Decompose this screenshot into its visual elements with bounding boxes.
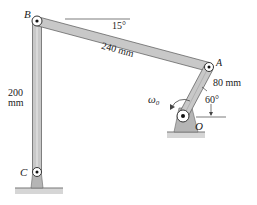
- pin-a: [205, 63, 214, 72]
- linkage-diagram: B A C O 15° 240 mm 80 mm 60° 200 mm ω0: [0, 0, 257, 205]
- label-c: C: [20, 166, 28, 178]
- label-angle-15: 15°: [112, 20, 126, 31]
- pin-c: [33, 168, 42, 177]
- omega-subscript: 0: [156, 99, 160, 107]
- label-length-oa: 80 mm: [213, 77, 241, 88]
- link-bc: [33, 21, 42, 172]
- label-a: A: [215, 57, 223, 68]
- pin-b: [32, 16, 42, 26]
- label-omega: ω0: [148, 93, 160, 107]
- label-b: B: [24, 8, 31, 20]
- pin-o: [177, 110, 189, 122]
- label-o: O: [195, 120, 203, 132]
- label-angle-60: 60°: [205, 94, 219, 105]
- label-length-bc-unit: mm: [8, 97, 24, 108]
